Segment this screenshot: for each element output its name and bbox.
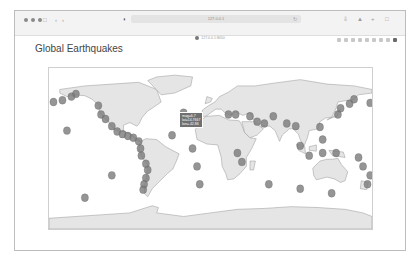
earthquake-marker[interactable] bbox=[135, 137, 142, 145]
earthquake-marker[interactable] bbox=[144, 166, 151, 174]
earthquake-marker[interactable] bbox=[50, 98, 57, 106]
page-content: Global Earthquakes bbox=[15, 35, 405, 250]
earthquake-marker[interactable] bbox=[337, 104, 344, 112]
earthquake-marker[interactable] bbox=[225, 111, 232, 119]
tabs-icon[interactable]: □ bbox=[385, 16, 389, 22]
earthquake-marker[interactable] bbox=[108, 171, 115, 179]
earthquake-marker[interactable] bbox=[95, 102, 102, 110]
zoom-in-icon[interactable] bbox=[372, 38, 376, 42]
earthquake-marker[interactable] bbox=[189, 145, 196, 153]
earthquake-marker[interactable] bbox=[196, 180, 203, 188]
earthquake-marker[interactable] bbox=[283, 120, 290, 128]
map-plot[interactable]: mag=6.7 lat=14.7667 lon=-42.86 bbox=[48, 67, 373, 230]
close-window-button[interactable] bbox=[24, 18, 28, 22]
earthquake-marker[interactable] bbox=[359, 162, 366, 170]
address-bar[interactable]: 127.0.0.1 ↻ bbox=[131, 15, 301, 23]
earthquake-marker[interactable] bbox=[102, 115, 109, 123]
earthquake-marker[interactable] bbox=[234, 149, 241, 157]
earthquake-marker[interactable] bbox=[59, 96, 66, 104]
camera-icon[interactable] bbox=[337, 38, 341, 42]
earthquake-marker[interactable] bbox=[292, 122, 299, 130]
earthquake-marker[interactable] bbox=[333, 149, 340, 157]
earthquake-marker[interactable] bbox=[270, 112, 277, 120]
earthquake-marker[interactable] bbox=[137, 145, 144, 153]
new-tab-icon[interactable]: + bbox=[371, 16, 375, 22]
reset-icon[interactable] bbox=[386, 38, 390, 42]
pan-icon[interactable] bbox=[351, 38, 355, 42]
forward-icon[interactable]: › bbox=[62, 17, 64, 23]
earthquake-marker[interactable] bbox=[63, 127, 70, 135]
earthquake-marker[interactable] bbox=[364, 180, 371, 188]
earthquake-marker[interactable] bbox=[319, 136, 326, 144]
earthquake-marker[interactable] bbox=[246, 112, 253, 120]
earthquake-marker[interactable] bbox=[232, 111, 239, 119]
earthquake-marker[interactable] bbox=[367, 99, 372, 107]
browser-toolbar: □ ‹ › ◐ 127.0.0.1 ↻ ⇩ ▲ + □ 127.0.0.1:80… bbox=[15, 11, 405, 36]
earthquake-marker[interactable] bbox=[193, 162, 200, 170]
earthquake-marker[interactable] bbox=[81, 194, 88, 202]
reload-icon[interactable]: ↻ bbox=[293, 16, 297, 22]
plot-modebar bbox=[337, 38, 397, 42]
maximize-window-button[interactable] bbox=[38, 18, 42, 22]
earthquake-marker[interactable] bbox=[140, 186, 147, 194]
world-map[interactable] bbox=[49, 68, 372, 229]
earthquake-marker[interactable] bbox=[297, 185, 304, 193]
earthquake-marker[interactable] bbox=[367, 171, 372, 179]
shield-icon[interactable]: ◐ bbox=[123, 16, 127, 22]
plotly-logo-icon[interactable] bbox=[393, 38, 397, 42]
sidebar-icon[interactable]: □ bbox=[43, 17, 47, 23]
earthquake-marker[interactable] bbox=[297, 142, 304, 150]
window-controls bbox=[24, 18, 42, 22]
earthquake-marker[interactable] bbox=[306, 152, 313, 160]
hover-tooltip: mag=6.7 lat=14.7667 lon=-42.86 bbox=[179, 112, 203, 128]
back-icon[interactable]: ‹ bbox=[55, 17, 57, 23]
zoom-icon[interactable] bbox=[344, 38, 348, 42]
tooltip-lon: lon=-42.86 bbox=[182, 122, 200, 126]
earthquake-marker[interactable] bbox=[168, 131, 175, 139]
download-icon[interactable]: ⇩ bbox=[343, 16, 348, 22]
earthquake-marker[interactable] bbox=[261, 120, 268, 128]
earthquake-marker[interactable] bbox=[328, 189, 335, 197]
earthquake-marker[interactable] bbox=[265, 180, 272, 188]
tab-bar: 127.0.0.1:8050 bbox=[15, 26, 405, 34]
earthquake-marker[interactable] bbox=[319, 149, 326, 157]
earthquake-marker[interactable] bbox=[316, 123, 323, 131]
earthquake-marker[interactable] bbox=[138, 152, 145, 160]
url-text: 127.0.0.1 bbox=[131, 16, 301, 21]
select-box-icon[interactable] bbox=[358, 38, 362, 42]
earthquake-marker[interactable] bbox=[254, 118, 261, 126]
earthquake-marker[interactable] bbox=[238, 158, 245, 166]
earthquake-marker[interactable] bbox=[355, 154, 362, 162]
earthquake-marker[interactable] bbox=[68, 93, 75, 101]
browser-window: □ ‹ › ◐ 127.0.0.1 ↻ ⇩ ▲ + □ 127.0.0.1:80… bbox=[14, 10, 406, 251]
share-icon[interactable]: ▲ bbox=[357, 16, 363, 22]
page-title: Global Earthquakes bbox=[35, 43, 123, 54]
minimize-window-button[interactable] bbox=[31, 18, 35, 22]
zoom-out-icon[interactable] bbox=[379, 38, 383, 42]
lasso-icon[interactable] bbox=[365, 38, 369, 42]
earthquake-marker[interactable] bbox=[350, 95, 357, 103]
